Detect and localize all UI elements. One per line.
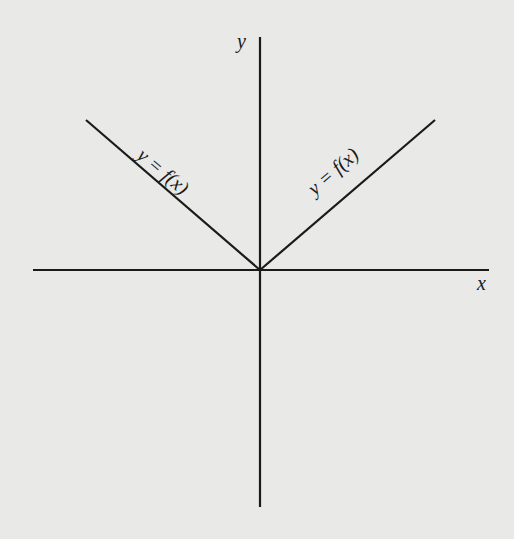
x-axis-label: x: [477, 272, 486, 295]
y-axis-label: y: [237, 30, 246, 53]
graph-canvas: [0, 0, 514, 539]
graph-figure: y x y = f(x) y = f(x): [0, 0, 514, 539]
